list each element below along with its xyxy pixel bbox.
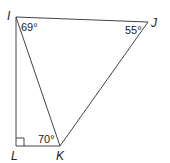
vertex-label-l: L	[11, 149, 18, 163]
vertex-label-i: I	[7, 9, 11, 23]
segment-jk	[60, 22, 148, 146]
angle-label-k: 70°	[38, 133, 55, 145]
right-angle-marker	[16, 138, 24, 146]
angle-label-j: 55°	[125, 24, 142, 36]
segment-ik	[16, 17, 60, 146]
vertex-label-k: K	[56, 149, 65, 163]
geometry-diagram: I J L K 69° 55° 70°	[0, 0, 170, 163]
angle-label-i: 69°	[21, 21, 38, 33]
vertex-label-j: J	[150, 16, 158, 30]
